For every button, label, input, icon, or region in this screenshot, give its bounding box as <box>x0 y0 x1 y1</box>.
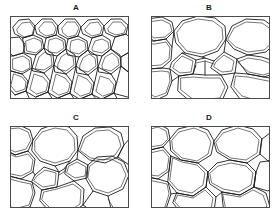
figure-panel-grid: A <box>0 0 279 218</box>
panel-a-label: A <box>66 3 86 12</box>
panel-b-microstructure <box>152 17 270 99</box>
panel-d-frame <box>151 126 270 208</box>
panel-b-frame <box>151 16 270 99</box>
panel-d-label: D <box>199 113 219 122</box>
panel-c-microstructure <box>11 127 129 208</box>
panel-a-frame <box>10 16 129 99</box>
panel-c-frame <box>10 126 129 208</box>
panel-c-label: C <box>66 113 86 122</box>
panel-b-label: B <box>199 3 219 12</box>
panel-d-microstructure <box>152 127 270 208</box>
panel-a-microstructure <box>11 17 129 99</box>
